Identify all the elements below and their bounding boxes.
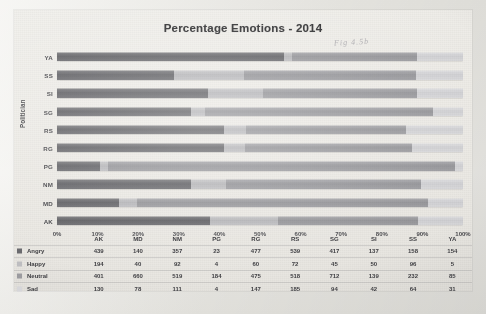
bar-segment-sad [416, 71, 463, 80]
legend-item-sad[interactable]: Sad [14, 283, 79, 295]
table-body: Angry43914035723477539417137158154Happy1… [14, 245, 472, 295]
bar-segment-sad [417, 52, 463, 61]
bar-segment-happy [208, 89, 263, 98]
legend-swatch-neutral-icon [17, 274, 22, 279]
table-header-row: AKMDNMPGRGRSSGSISSYA [14, 233, 472, 245]
bar-segment-neutral [244, 71, 415, 80]
bar-segment-neutral [245, 143, 411, 152]
bar-segment-happy [191, 180, 226, 189]
table-cell: 147 [236, 283, 275, 295]
category-label-nm: NM [27, 181, 53, 188]
bar-segment-sad [406, 125, 463, 134]
table-cell: 401 [79, 270, 118, 283]
bar-segment-happy [284, 52, 291, 61]
table-cell: 477 [236, 245, 275, 258]
table-cell: 4 [197, 258, 236, 271]
table-cell: 45 [315, 258, 354, 271]
bar-segment-happy [100, 162, 108, 171]
category-label-ya: YA [27, 54, 53, 61]
stacked-bar [57, 107, 463, 116]
stacked-bar [57, 71, 463, 80]
table-row: Happy1944092460724550965 [14, 258, 472, 271]
category-label-pg: PG [27, 163, 53, 170]
stacked-bar [57, 216, 463, 225]
bar-row-si: SI [57, 84, 463, 102]
stacked-bar [57, 198, 463, 207]
table-cell: 31 [433, 283, 472, 295]
table-cell: 42 [354, 283, 393, 295]
category-label-rs: RS [27, 126, 53, 133]
table-cell: 518 [275, 270, 314, 283]
table-column-header: RG [236, 233, 275, 245]
bar-segment-sad [455, 162, 463, 171]
table-cell: 40 [118, 258, 157, 271]
table-column-header: RS [275, 233, 314, 245]
y-axis-title: Politician [19, 100, 26, 128]
table-corner-cell [14, 233, 79, 245]
stacked-bar [57, 125, 463, 134]
legend-swatch-happy-icon [17, 261, 22, 266]
table-cell: 50 [354, 258, 393, 271]
table-cell: 194 [79, 258, 118, 271]
table-cell: 23 [197, 245, 236, 258]
table-column-header: PG [197, 233, 236, 245]
table-row: Neutral40166051918447551871213923285 [14, 270, 472, 283]
plot-area: YASSSISGRSRGPGNMMDAK [57, 48, 463, 230]
category-label-sg: SG [27, 108, 53, 115]
bar-row-sg: SG [57, 103, 463, 121]
table-cell: 139 [354, 270, 393, 283]
table-cell: 85 [433, 270, 472, 283]
table-cell: 60 [236, 258, 275, 271]
stacked-bar [57, 180, 463, 189]
table-cell: 184 [197, 270, 236, 283]
bar-segment-angry [57, 107, 191, 116]
bar-segment-happy [119, 198, 137, 207]
bar-row-ya: YA [57, 48, 463, 66]
bar-row-rg: RG [57, 139, 463, 157]
table-cell: 72 [275, 258, 314, 271]
table-cell: 232 [393, 270, 432, 283]
bar-segment-sad [421, 180, 463, 189]
bar-segment-sad [418, 216, 463, 225]
table-cell: 137 [354, 245, 393, 258]
bar-segment-neutral [278, 216, 418, 225]
table-cell: 660 [118, 270, 157, 283]
bar-segment-happy [210, 216, 278, 225]
table-cell: 357 [158, 245, 197, 258]
bar-segment-angry [57, 125, 224, 134]
bar-segment-angry [57, 143, 224, 152]
table-row: Sad13078111414718594426431 [14, 283, 472, 295]
table-cell: 154 [433, 245, 472, 258]
bar-segment-angry [57, 198, 119, 207]
table-column-header: AK [79, 233, 118, 245]
category-label-ss: SS [27, 72, 53, 79]
table-cell: 539 [275, 245, 314, 258]
stacked-bar [57, 143, 463, 152]
bar-segment-sad [417, 89, 463, 98]
table-cell: 96 [393, 258, 432, 271]
category-label-rg: RG [27, 145, 53, 152]
legend-data-table: AKMDNMPGRGRSSGSISSYA Angry43914035723477… [14, 233, 472, 295]
bar-segment-happy [224, 125, 246, 134]
bar-segment-sad [428, 198, 462, 207]
table-column-header: SG [315, 233, 354, 245]
category-label-si: SI [27, 90, 53, 97]
legend-item-happy[interactable]: Happy [14, 258, 79, 271]
stacked-bar [57, 89, 463, 98]
table-cell: 78 [118, 283, 157, 295]
legend-label: Neutral [27, 273, 48, 279]
table-cell: 64 [393, 283, 432, 295]
legend-item-angry[interactable]: Angry [14, 245, 79, 258]
chart-title: Percentage Emotions - 2014 [14, 22, 472, 34]
bar-row-pg: PG [57, 157, 463, 175]
stacked-bar [57, 52, 463, 61]
table-cell: 475 [236, 270, 275, 283]
table-cell: 4 [197, 283, 236, 295]
table-cell: 140 [118, 245, 157, 258]
legend-label: Sad [27, 286, 38, 292]
table-column-header: SS [393, 233, 432, 245]
table-cell: 111 [158, 283, 197, 295]
legend-item-neutral[interactable]: Neutral [14, 270, 79, 283]
bar-segment-neutral [108, 162, 455, 171]
bar-segment-happy [174, 71, 245, 80]
